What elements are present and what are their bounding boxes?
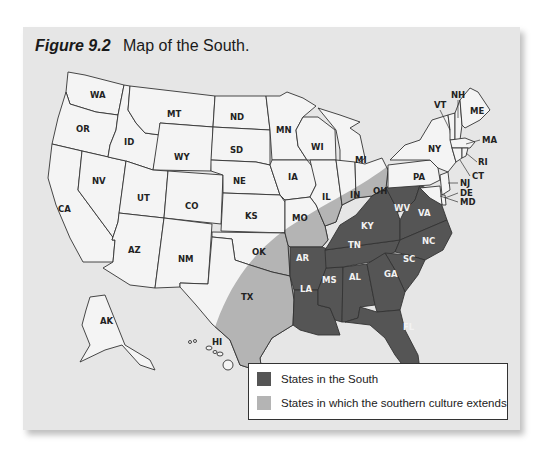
state-RI: [462, 148, 468, 158]
state-CO: [164, 171, 223, 224]
map-legend: States in the South States in which the …: [248, 363, 508, 420]
label-NY: NY: [428, 144, 442, 154]
label-SC: SC: [403, 254, 415, 264]
label-PA: PA: [413, 172, 425, 182]
label-MA: MA: [482, 135, 497, 145]
label-MI: MI: [355, 155, 367, 165]
label-MS: MS: [322, 275, 337, 285]
label-MO: MO: [292, 213, 308, 223]
state-MA: [450, 138, 475, 148]
label-AR: AR: [296, 253, 310, 263]
label-NJ: NJ: [460, 178, 470, 188]
state-HI: [189, 340, 234, 371]
label-NM: NM: [178, 254, 194, 264]
label-IL: IL: [322, 192, 331, 202]
label-TX: TX: [241, 292, 254, 302]
label-RI: RI: [478, 157, 488, 167]
label-KS: KS: [245, 211, 258, 221]
legend-label-culture: States in which the southern culture ext…: [281, 397, 507, 409]
label-ID: ID: [124, 137, 134, 147]
label-AL: AL: [349, 272, 362, 282]
label-CO: CO: [185, 201, 198, 211]
label-NC: NC: [422, 236, 435, 246]
legend-item-culture: States in which the southern culture ext…: [257, 395, 507, 411]
label-NH: NH: [451, 90, 465, 100]
label-HI: HI: [212, 337, 222, 347]
label-UT: UT: [137, 193, 150, 203]
label-MN: MN: [276, 125, 292, 135]
label-ME: ME: [470, 106, 484, 116]
label-TN: TN: [348, 240, 361, 250]
label-WA: WA: [90, 90, 106, 100]
legend-swatch-culture: [257, 396, 271, 410]
state-NJ: [440, 172, 450, 195]
label-IN: IN: [350, 190, 360, 200]
legend-swatch-south: [257, 372, 271, 386]
label-GA: GA: [384, 269, 398, 279]
state-WY: [153, 123, 213, 171]
label-MT: MT: [167, 109, 181, 119]
figure-card: Figure 9.2 Map of the South.: [23, 27, 520, 430]
label-NV: NV: [92, 176, 106, 186]
state-AK: [80, 295, 155, 370]
state-NM: [155, 218, 212, 288]
label-WI: WI: [311, 142, 324, 152]
label-OH: OH: [373, 186, 387, 196]
label-OK: OK: [252, 247, 266, 257]
label-CA: CA: [58, 204, 71, 214]
label-OR: OR: [76, 124, 90, 134]
label-AK: AK: [100, 316, 114, 326]
label-IA: IA: [288, 172, 298, 182]
label-AZ: AZ: [128, 245, 141, 255]
label-LA: LA: [300, 284, 312, 294]
label-MD: MD: [460, 197, 476, 207]
label-WV: WV: [394, 203, 410, 213]
label-SD: SD: [230, 145, 243, 155]
label-CT: CT: [472, 171, 484, 181]
label-FL: FL: [403, 322, 415, 332]
legend-label-south: States in the South: [281, 373, 378, 385]
legend-item-south: States in the South: [257, 371, 378, 387]
label-NE: NE: [233, 176, 246, 186]
label-VT: VT: [434, 100, 447, 110]
label-KY: KY: [361, 221, 375, 231]
label-ND: ND: [230, 112, 244, 122]
label-VA: VA: [418, 208, 431, 218]
label-WY: WY: [174, 152, 190, 162]
